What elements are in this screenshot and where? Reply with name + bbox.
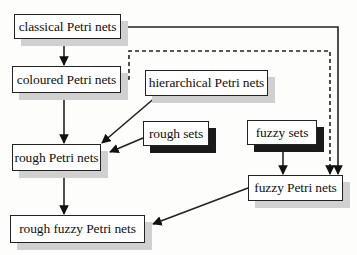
edge-fuzzy-petri-rough-fuzzy	[153, 188, 248, 224]
node-rough-petri-nets: rough Petri nets	[12, 144, 101, 171]
node-label: fuzzy sets	[256, 125, 309, 141]
edge-rough-sets-rough-petri	[110, 138, 143, 152]
node-coloured-petri-nets: coloured Petri nets	[12, 66, 121, 93]
node-label: fuzzy Petri nets	[254, 180, 336, 196]
node-label: rough Petri nets	[15, 150, 99, 166]
node-classical-petri-nets: classical Petri nets	[14, 14, 121, 39]
node-label: rough sets	[149, 126, 203, 142]
node-hierarchical-petri-nets: hierarchical Petri nets	[145, 70, 268, 96]
node-rough-sets: rough sets	[143, 121, 209, 146]
node-label: classical Petri nets	[19, 19, 117, 35]
node-rough-fuzzy-petri-nets: rough fuzzy Petri nets	[10, 215, 145, 243]
node-label: hierarchical Petri nets	[149, 75, 264, 91]
node-fuzzy-sets: fuzzy sets	[247, 120, 317, 145]
node-label: coloured Petri nets	[17, 72, 116, 88]
node-label: rough fuzzy Petri nets	[19, 221, 136, 237]
node-fuzzy-petri-nets: fuzzy Petri nets	[248, 175, 343, 201]
